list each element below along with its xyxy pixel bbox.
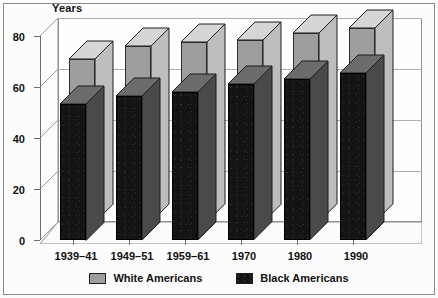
x-axis-label-3: 1970 (232, 250, 256, 262)
bar-black-1 (116, 96, 142, 240)
legend-item-white-americans: White Americans (89, 272, 202, 284)
bar-black-2 (172, 92, 198, 240)
y-tick-label-20: 20 (13, 184, 34, 196)
x-tick-1 (129, 240, 130, 245)
bar-black-4 (284, 79, 310, 240)
y-tick-80: 80 (34, 36, 40, 37)
legend-label-black: Black Americans (260, 272, 348, 284)
y-axis-line (40, 36, 41, 240)
bar-black-3-front-face (228, 84, 254, 240)
x-axis-label-2: 1959–61 (167, 250, 210, 262)
bar-black-2-front-face (172, 92, 198, 240)
bar-black-4-front-face (284, 79, 310, 240)
bar-black-0-front-face (60, 104, 86, 240)
x-tick-3 (241, 240, 242, 245)
x-axis-label-5: 1990 (344, 250, 368, 262)
x-axis-label-0: 1939–41 (55, 250, 98, 262)
plot-area: 020406080 (40, 18, 422, 244)
x-tick-2 (185, 240, 186, 245)
x-tick-4 (297, 240, 298, 245)
bar-black-5-front-face (340, 73, 366, 240)
y-tick-60: 60 (34, 87, 40, 88)
legend-item-black-americans: Black Americans (236, 272, 348, 284)
x-axis-label-1: 1949–51 (111, 250, 154, 262)
y-tick-20: 20 (34, 189, 40, 190)
x-tick-5 (353, 240, 354, 245)
legend: White Americans Black Americans (0, 272, 438, 284)
white-swatch-icon (89, 273, 106, 284)
x-tick-0 (73, 240, 74, 245)
bar-black-3 (228, 84, 254, 240)
x-axis-label-4: 1980 (288, 250, 312, 262)
black-swatch-icon (236, 273, 253, 284)
y-tick-0: 0 (34, 240, 40, 241)
y-tick-label-40: 40 (13, 133, 34, 145)
y-tick-label-60: 60 (13, 82, 34, 94)
figure: Years 020406080 1939–411949– (0, 0, 438, 298)
bar-black-5 (340, 73, 366, 240)
bar-black-0 (60, 104, 86, 240)
y-tick-40: 40 (34, 138, 40, 139)
y-tick-label-80: 80 (13, 31, 34, 43)
bars-layer (40, 18, 422, 244)
legend-label-white: White Americans (113, 272, 202, 284)
bar-black-1-front-face (116, 96, 142, 240)
y-axis-title: Years (52, 2, 82, 14)
y-tick-label-0: 0 (19, 235, 34, 247)
